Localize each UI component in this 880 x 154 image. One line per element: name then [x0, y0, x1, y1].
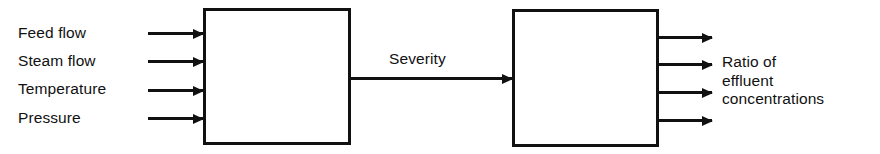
- connector-arrow-severity: [351, 77, 512, 80]
- output-arrow-2: [658, 63, 712, 66]
- output-label-group: Ratio of effluent concentrations: [722, 53, 824, 109]
- input-arrow-steam-flow: [148, 60, 203, 63]
- output-arrow-1: [658, 36, 712, 39]
- input-label-feed-flow: Feed flow: [18, 22, 143, 50]
- input-label-temperature: Temperature: [18, 78, 143, 106]
- input-arrow-temperature: [148, 89, 203, 92]
- input-label-steam-flow: Steam flow: [18, 50, 143, 78]
- input-label-pressure: Pressure: [18, 107, 143, 135]
- output-label-line-2: effluent: [722, 72, 824, 91]
- output-label-line-1: Ratio of: [722, 53, 824, 72]
- output-arrow-3: [658, 91, 712, 94]
- output-arrow-4: [658, 119, 712, 122]
- input-arrow-pressure: [148, 117, 203, 120]
- input-label-group: Feed flow Steam flow Temperature Pressur…: [18, 22, 143, 135]
- connector-label-severity: Severity: [389, 50, 446, 68]
- process-block-left: [203, 8, 351, 145]
- process-block-right: [512, 9, 659, 147]
- output-label-line-3: concentrations: [722, 90, 824, 109]
- block-diagram: Feed flow Steam flow Temperature Pressur…: [0, 0, 880, 154]
- input-arrow-feed-flow: [148, 32, 203, 35]
